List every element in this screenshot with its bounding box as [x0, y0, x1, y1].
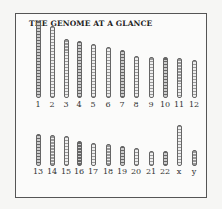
chromosome-label: 9	[144, 100, 158, 109]
chromosome-21	[149, 151, 154, 166]
chromosome-8	[134, 56, 139, 98]
chromosome-6	[106, 47, 111, 98]
chromosome-16	[77, 141, 82, 166]
chromosome-label: x	[172, 167, 186, 176]
chromosome-13	[36, 134, 41, 166]
chromosome-2	[50, 26, 55, 98]
chromosome-label: 1	[31, 100, 45, 109]
chromosome-label: 6	[101, 100, 115, 109]
chromosome-label: 16	[72, 167, 86, 176]
genome-figure: THE GENOME AT A GLANCE 12345678910111213…	[15, 13, 207, 198]
chromosome-label: 20	[129, 167, 143, 176]
chromosome-label: y	[187, 167, 201, 176]
chromosome-label: 2	[45, 100, 59, 109]
chromosome-label: 17	[86, 167, 100, 176]
chromosome-17	[91, 143, 96, 166]
chromosome-label: 18	[101, 167, 115, 176]
chromosome-label: 13	[31, 167, 45, 176]
chromosome-14	[50, 135, 55, 166]
figure-title: THE GENOME AT A GLANCE	[29, 19, 152, 28]
chromosome-7	[120, 50, 125, 98]
chromosome-11	[177, 58, 182, 98]
chromosome-1	[36, 21, 41, 98]
chromosome-x	[177, 125, 182, 166]
chromosome-19	[120, 146, 125, 166]
chromosome-5	[91, 44, 96, 98]
chromosome-12	[192, 60, 197, 98]
chromosome-label: 4	[72, 100, 86, 109]
chromosome-label: 8	[129, 100, 143, 109]
chromosome-label: 5	[86, 100, 100, 109]
chromosome-label: 7	[115, 100, 129, 109]
chromosome-y	[192, 150, 197, 166]
chromosome-label: 3	[59, 100, 73, 109]
chromosome-22	[163, 151, 168, 166]
chromosome-label: 12	[187, 100, 201, 109]
chromosome-18	[106, 144, 111, 166]
chromosome-9	[149, 57, 154, 98]
chromosome-label: 21	[144, 167, 158, 176]
chromosome-label: 22	[158, 167, 172, 176]
chromosome-label: 14	[45, 167, 59, 176]
chromosome-label: 11	[172, 100, 186, 109]
chromosome-label: 19	[115, 167, 129, 176]
chromosome-20	[134, 148, 139, 166]
chromosome-10	[163, 57, 168, 98]
chromosome-label: 15	[59, 167, 73, 176]
chromosome-label: 10	[158, 100, 172, 109]
chromosome-15	[64, 136, 69, 166]
chromosome-3	[64, 39, 69, 98]
chromosome-4	[77, 41, 82, 98]
